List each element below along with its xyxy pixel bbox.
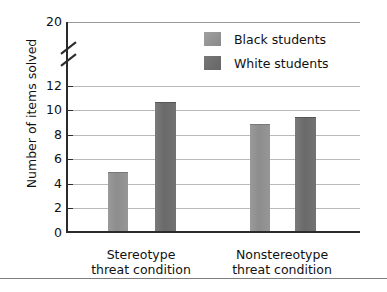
bottom-divider — [0, 278, 387, 279]
gridline-8 — [68, 135, 360, 136]
legend-swatch-icon — [204, 32, 221, 46]
legend-item-black-students: Black students — [204, 28, 364, 50]
ytick-label-20: 20 — [22, 16, 62, 28]
gridline-6 — [68, 159, 360, 160]
category-label-line-1: Nonstereotype — [207, 247, 357, 262]
category-label-line-1: Stereotype — [66, 247, 216, 262]
ytick-label-0: 0 — [22, 227, 62, 239]
legend-label-black-students: Black students — [234, 32, 326, 47]
bar-fill — [250, 124, 270, 232]
bar-black-students-stereotype — [108, 172, 128, 232]
bar-white-students-stereotype — [155, 102, 176, 232]
category-label-line-2: threat condition — [66, 262, 216, 277]
axis-break-slash-lower — [60, 53, 76, 66]
ytick-mark-4 — [68, 184, 73, 185]
ytick-mark-6 — [68, 159, 73, 160]
legend-label-white-students: White students — [234, 56, 329, 71]
category-label-line-2: threat condition — [207, 262, 357, 277]
bar-chart-figure: 20 12 10 8 6 4 2 0 Number of items solve… — [0, 0, 387, 292]
ytick-label-2: 2 — [22, 202, 62, 214]
legend-swatch-icon — [204, 56, 221, 70]
bar-fill — [295, 117, 316, 232]
category-label-stereotype: Stereotype threat condition — [66, 247, 216, 277]
legend-item-white-students: White students — [204, 52, 364, 74]
ytick-mark-2 — [68, 208, 73, 209]
gridline-20 — [68, 22, 360, 23]
bar-white-students-nonstereotype — [295, 117, 316, 232]
bar-fill — [155, 102, 176, 232]
y-axis-title: Number of items solved — [24, 39, 39, 189]
ytick-mark-8 — [68, 135, 73, 136]
ytick-mark-12 — [68, 86, 73, 87]
bar-black-students-nonstereotype — [250, 124, 270, 232]
ytick-mark-10 — [68, 110, 73, 111]
gridline-10 — [68, 110, 360, 111]
bar-fill — [108, 172, 128, 232]
x-axis-line — [66, 231, 360, 233]
category-label-nonstereotype: Nonstereotype threat condition — [207, 247, 357, 277]
legend: Black students White students — [204, 28, 364, 76]
gridline-12 — [68, 86, 360, 87]
